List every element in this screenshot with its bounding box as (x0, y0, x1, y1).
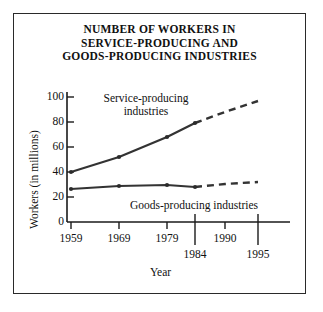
x-tick-label-1979: 1979 (147, 232, 187, 244)
chart-frame: NUMBER OF WORKERS IN SERVICE-PRODUCING A… (13, 13, 306, 294)
y-tick-label-80: 80 (34, 115, 64, 127)
plot-area: Workers (in millions) 100 80 60 40 20 0 … (14, 14, 307, 295)
y-tick-label-100: 100 (34, 90, 64, 102)
data-point-goods-1984 (193, 185, 197, 189)
x-tick-label-1984: 1984 (175, 248, 215, 260)
series-annotation-service-line-2: industries (86, 105, 206, 118)
data-point-service-1979 (165, 135, 169, 139)
y-tick-label-0: 0 (34, 215, 64, 227)
x-tick-label-1995: 1995 (238, 248, 278, 260)
x-tick-label-1969: 1969 (99, 232, 139, 244)
x-tick-label-1990: 1990 (205, 232, 245, 244)
data-point-service-1959 (69, 170, 73, 174)
series-annotation-goods: Goods-producing industries (114, 199, 274, 212)
series-line-goods-projected (195, 182, 258, 187)
x-axis-title: Year (14, 266, 307, 278)
data-point-goods-1979 (165, 183, 169, 187)
series-annotation-service: Service-producing industries (86, 92, 206, 118)
data-point-service-1969 (117, 155, 121, 159)
series-annotation-goods-line-1: Goods-producing industries (114, 199, 274, 212)
data-point-goods-1959 (69, 187, 73, 191)
series-line-goods-solid (71, 185, 195, 189)
y-tick-label-20: 20 (34, 190, 64, 202)
x-tick-label-1959: 1959 (51, 232, 91, 244)
y-tick-label-60: 60 (34, 140, 64, 152)
series-annotation-service-line-1: Service-producing (86, 92, 206, 105)
data-point-goods-1969 (117, 184, 121, 188)
data-point-service-1984 (193, 121, 197, 125)
series-line-service-solid (71, 123, 195, 172)
y-tick-label-40: 40 (34, 165, 64, 177)
